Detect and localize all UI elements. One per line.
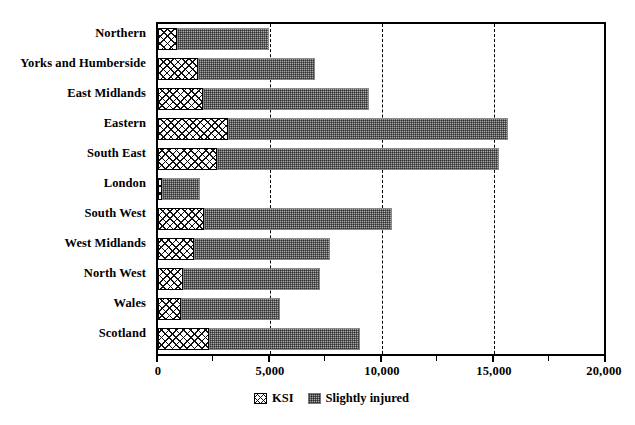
bar-segment-slightly-injured (217, 148, 499, 170)
y-axis-label-north-west: North West (0, 267, 146, 280)
y-axis-label-south-west: South West (0, 207, 146, 220)
legend-item-slightly-injured: Slightly injured (308, 392, 409, 405)
y-axis-label-south-east: South East (0, 147, 146, 160)
bar-row (158, 148, 499, 170)
x-tick-15000 (492, 356, 494, 362)
bar-segment-ksi (158, 28, 177, 50)
legend-label-ksi: KSI (272, 392, 294, 405)
bar-segment-ksi (158, 238, 194, 260)
bar-segment-slightly-injured (203, 88, 369, 110)
bar-row (158, 28, 269, 50)
bar-row (158, 328, 360, 350)
gridline-10000 (382, 24, 383, 354)
bar-segment-slightly-injured (162, 178, 200, 200)
x-tick-5000 (268, 356, 270, 362)
bar-row (158, 88, 369, 110)
y-axis-category-labels: Northern Yorks and Humberside East Midla… (0, 22, 152, 356)
y-axis-label-northern: Northern (0, 27, 146, 40)
bar-row (158, 268, 320, 290)
legend-label-slightly-injured: Slightly injured (326, 392, 409, 405)
x-tick-0 (156, 356, 158, 362)
bar-row (158, 118, 508, 140)
x-tick-2500 (212, 356, 213, 361)
x-axis-tick-labels: 0 5,000 10,000 15,000 20,000 (0, 364, 635, 384)
y-axis-label-eastern: Eastern (0, 117, 146, 130)
bar-segment-slightly-injured (209, 328, 360, 350)
bar-segment-ksi (158, 88, 203, 110)
bar-row (158, 238, 330, 260)
gridline-15000 (494, 24, 495, 354)
y-axis-label-wales: Wales (0, 297, 146, 310)
y-axis-label-london: London (0, 177, 146, 190)
x-axis-label-20000: 20,000 (586, 364, 622, 379)
crosshatch-swatch-icon (254, 393, 267, 404)
bar-segment-slightly-injured (204, 208, 392, 230)
bar-segment-ksi (158, 208, 204, 230)
x-tick-7500 (324, 356, 325, 361)
bar-segment-slightly-injured (181, 298, 279, 320)
chart-legend: KSI Slightly injured (0, 392, 635, 408)
bar-segment-ksi (158, 118, 228, 140)
bar-segment-slightly-injured (228, 118, 508, 140)
x-tick-12500 (436, 356, 437, 361)
bar-segment-slightly-injured (198, 58, 315, 80)
bar-row (158, 208, 392, 230)
stacked-bar-chart: Northern Yorks and Humberside East Midla… (0, 0, 635, 425)
bar-segment-slightly-injured (194, 238, 330, 260)
legend-item-ksi: KSI (254, 392, 294, 405)
x-tick-20000 (604, 356, 606, 362)
bar-segment-ksi (158, 58, 198, 80)
bar-row (158, 178, 200, 200)
x-axis-label-5000: 5,000 (255, 364, 284, 379)
stipple-swatch-icon (308, 393, 321, 404)
y-axis-label-scotland: Scotland (0, 327, 146, 340)
bar-segment-ksi (158, 328, 209, 350)
x-tick-17500 (548, 356, 549, 361)
x-axis-label-10000: 10,000 (364, 364, 400, 379)
bar-row (158, 58, 315, 80)
x-tick-10000 (380, 356, 382, 362)
y-axis-label-west-midlands: West Midlands (0, 237, 146, 250)
plot-area (156, 22, 606, 356)
bar-row (158, 298, 280, 320)
bar-segment-slightly-injured (183, 268, 320, 290)
x-axis-label-15000: 15,000 (476, 364, 512, 379)
bar-segment-ksi (158, 148, 217, 170)
x-axis-label-0: 0 (155, 364, 161, 379)
x-axis-ticks (156, 356, 606, 364)
bar-segment-ksi (158, 298, 181, 320)
bar-segment-ksi (158, 268, 183, 290)
y-axis-label-east-midlands: East Midlands (0, 87, 146, 100)
y-axis-label-yorks-and-humberside: Yorks and Humberside (0, 57, 146, 70)
bar-segment-slightly-injured (177, 28, 270, 50)
